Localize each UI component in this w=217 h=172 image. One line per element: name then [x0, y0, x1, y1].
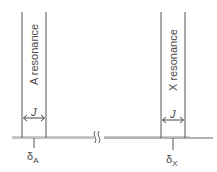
a-shift-label: δA	[27, 150, 39, 165]
a-coupling-label: J	[30, 106, 37, 118]
x-resonance-label: X resonance	[167, 29, 179, 91]
nmr-ax-diagram: A resonance J δA X resonance J δX	[0, 0, 217, 172]
a-shift-subscript: A	[33, 156, 39, 165]
a-resonance-group: A resonance J δA	[22, 12, 46, 165]
a-resonance-label: A resonance	[28, 24, 40, 85]
x-coupling-label: J	[169, 108, 176, 120]
axis-break-icon	[94, 131, 100, 143]
baseline	[12, 137, 213, 139]
x-resonance-group: X resonance J δX	[161, 12, 185, 168]
x-shift-label: δX	[166, 153, 178, 168]
x-shift-subscript: X	[172, 159, 178, 168]
